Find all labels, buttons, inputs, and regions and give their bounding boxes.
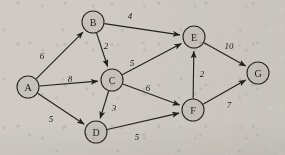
edge-weight-d-f: 5 <box>135 132 140 142</box>
graph-node-f[interactable]: F <box>182 99 204 121</box>
edge-weight-c-d: 3 <box>111 103 117 113</box>
graph-edge-f-g <box>203 80 246 104</box>
graph-edge-c-f <box>123 84 180 105</box>
edge-weight-e-g: 10 <box>225 41 235 51</box>
node-label-a: A <box>24 82 32 93</box>
graph-node-e[interactable]: E <box>183 26 205 48</box>
node-label-c: C <box>109 75 116 86</box>
edge-weight-a-b: 6 <box>40 51 45 61</box>
edge-weight-f-g: 7 <box>227 100 232 110</box>
node-label-b: B <box>90 17 97 28</box>
edge-weight-c-e: 5 <box>130 58 135 68</box>
graph-edge-f-e <box>193 51 194 98</box>
edge-weight-b-c: 2 <box>104 41 109 51</box>
edge-weight-c-f: 6 <box>146 83 151 93</box>
graph-edge-a-d <box>38 93 85 124</box>
edge-weight-f-e: 2 <box>200 69 205 79</box>
graph-node-d[interactable]: D <box>85 121 107 143</box>
edge-weight-a-d: 5 <box>49 114 54 124</box>
graph-edge-b-e <box>104 24 180 35</box>
graph-node-b[interactable]: B <box>82 11 104 33</box>
graph-edge-d-f <box>107 113 179 129</box>
graph-canvas: ABCDEFG 6854256352107 <box>0 0 285 155</box>
graph-figure: ABCDEFG 6854256352107 <box>0 0 285 155</box>
node-label-e: E <box>191 32 197 43</box>
node-label-f: F <box>190 105 196 116</box>
node-layer: ABCDEFG <box>17 11 269 143</box>
graph-node-c[interactable]: C <box>101 69 123 91</box>
edge-weight-b-e: 4 <box>128 11 133 21</box>
graph-node-a[interactable]: A <box>17 76 39 98</box>
edge-weight-a-c: 8 <box>68 74 73 84</box>
graph-edge-c-d <box>100 91 108 118</box>
graph-node-g[interactable]: G <box>247 62 269 84</box>
node-label-g: G <box>254 68 261 79</box>
node-label-d: D <box>92 127 99 138</box>
